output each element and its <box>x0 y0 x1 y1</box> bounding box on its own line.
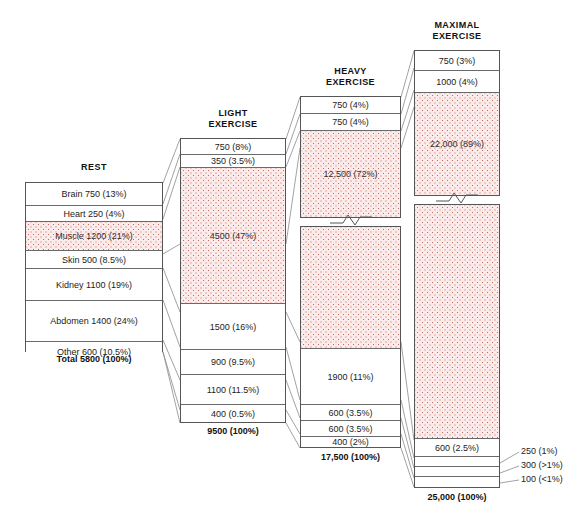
stack-rest: Brain 750 (13%) Heart 250 (4%) Muscle 12… <box>25 182 163 352</box>
segment-brain[interactable]: Brain 750 (13%) <box>26 183 162 206</box>
stack-heavy-exercise-lower: 1900 (11%) 600 (3.5%) 600 (3.5%) 400 (2%… <box>300 226 401 448</box>
column-title-maximal-exercise: MAXIMAL EXERCISE <box>414 20 500 42</box>
segment-abdomen[interactable]: 600 (3.5%) <box>301 421 400 437</box>
column-total-heavy-exercise: 17,500 (100%) <box>300 452 401 462</box>
segment-label-skin: 1900 (11%) <box>326 372 376 382</box>
column-rest: REST Brain 750 (13%) Heart 250 (4%) Musc… <box>25 162 163 370</box>
segment-muscle-continued[interactable] <box>415 205 499 439</box>
segment-kidney[interactable] <box>415 457 499 467</box>
segment-label-skin: 1500 (16%) <box>208 322 259 332</box>
segment-label-abdomen: Abdomen 1400 (24%) <box>48 316 140 326</box>
segment-heart[interactable]: 750 (4%) <box>301 114 400 131</box>
segment-skin[interactable]: 1900 (11%) <box>301 349 400 405</box>
segment-other[interactable]: 400 (0.5%) <box>181 405 285 422</box>
stack-heavy-exercise-upper: 750 (4%) 750 (4%) 12,500 (72%) <box>300 96 401 218</box>
axis-break-icon <box>330 212 372 226</box>
segment-label-kidney: 600 (3.5%) <box>326 408 374 418</box>
column-total-maximal-exercise: 25,000 (100%) <box>414 492 500 502</box>
segment-label-skin: 600 (2.5%) <box>433 443 481 453</box>
segment-brain[interactable]: 750 (8%) <box>181 139 285 155</box>
segment-other[interactable] <box>415 477 499 487</box>
segment-kidney[interactable]: 600 (3.5%) <box>301 405 400 421</box>
segment-label-muscle: 12,500 (72%) <box>321 169 379 179</box>
segment-label-muscle: 4500 (47%) <box>208 231 259 241</box>
segment-brain[interactable]: 750 (4%) <box>301 97 400 114</box>
stack-maximal-exercise-upper: 750 (3%) 1000 (4%) 22,000 (89%) <box>414 50 500 196</box>
segment-abdomen[interactable]: 1100 (11.5%) <box>181 375 285 405</box>
column-title-rest: REST <box>25 162 163 173</box>
callout-label-kidney: 250 (1%) <box>521 446 558 456</box>
segment-label-brain: Brain 750 (13%) <box>59 189 128 199</box>
segment-muscle[interactable]: 22,000 (89%) <box>415 93 499 195</box>
segment-kidney[interactable]: 900 (9.5%) <box>181 350 285 375</box>
column-heavy-exercise: HEAVY EXERCISE 750 (4%) 750 (4%) 12,500 … <box>300 66 401 466</box>
column-maximal-exercise: MAXIMAL EXERCISE 750 (3%) 1000 (4%) 22,0… <box>414 20 500 510</box>
callout-label-abdomen: 300 (>1%) <box>521 460 563 470</box>
column-title-light-exercise: LIGHT EXERCISE <box>180 108 286 130</box>
segment-heart[interactable]: Heart 250 (4%) <box>26 206 162 222</box>
segment-label-brain: 750 (3%) <box>437 56 478 66</box>
segment-label-brain: 750 (4%) <box>330 100 371 110</box>
segment-label-heart: 1000 (4%) <box>434 77 480 87</box>
column-title-heavy-exercise: HEAVY EXERCISE <box>300 66 401 88</box>
segment-label-muscle: Muscle 1200 (21%) <box>53 231 135 241</box>
segment-muscle[interactable]: 4500 (47%) <box>181 168 285 304</box>
segment-label-heart: 350 (3.5%) <box>209 156 257 166</box>
segment-kidney[interactable]: Kidney 1100 (19%) <box>26 269 162 301</box>
segment-skin[interactable]: Skin 500 (8.5%) <box>26 251 162 269</box>
segment-label-abdomen: 600 (3.5%) <box>326 424 374 434</box>
segment-label-kidney: 900 (9.5%) <box>209 357 257 367</box>
segment-label-brain: 750 (8%) <box>213 142 254 152</box>
segment-abdomen[interactable]: Abdomen 1400 (24%) <box>26 301 162 342</box>
segment-label-other: 400 (0.5%) <box>209 409 257 419</box>
segment-label-kidney: Kidney 1100 (19%) <box>54 280 134 290</box>
segment-heart[interactable]: 1000 (4%) <box>415 71 499 93</box>
column-light-exercise: LIGHT EXERCISE 750 (8%) 350 (3.5%) 4500 … <box>180 108 286 433</box>
segment-label-other: 400 (2%) <box>330 437 371 447</box>
segment-skin[interactable]: 600 (2.5%) <box>415 439 499 457</box>
stack-maximal-exercise-lower: 600 (2.5%) <box>414 204 500 488</box>
segment-other[interactable]: 400 (2%) <box>301 437 400 447</box>
column-total-light-exercise: 9500 (100%) <box>180 426 286 436</box>
blood-flow-distribution-diagram: REST Brain 750 (13%) Heart 250 (4%) Musc… <box>0 0 581 530</box>
segment-muscle-continued[interactable] <box>301 227 400 349</box>
segment-skin[interactable]: 1500 (16%) <box>181 304 285 350</box>
segment-label-heart: 750 (4%) <box>330 117 371 127</box>
stack-light-exercise: 750 (8%) 350 (3.5%) 4500 (47%) 1500 (16%… <box>180 138 286 423</box>
segment-brain[interactable]: 750 (3%) <box>415 51 499 71</box>
column-total-rest: Total 5800 (100%) <box>25 354 163 364</box>
segment-muscle[interactable]: 12,500 (72%) <box>301 131 400 217</box>
segment-label-skin: Skin 500 (8.5%) <box>60 255 128 265</box>
segment-muscle[interactable]: Muscle 1200 (21%) <box>26 222 162 251</box>
segment-label-heart: Heart 250 (4%) <box>61 209 126 219</box>
callout-label-other: 100 (<1%) <box>521 474 563 484</box>
segment-label-abdomen: 1100 (11.5%) <box>205 385 262 395</box>
segment-label-muscle: 22,000 (89%) <box>428 139 486 149</box>
axis-break-icon <box>436 190 478 204</box>
segment-heart[interactable]: 350 (3.5%) <box>181 155 285 168</box>
segment-abdomen[interactable] <box>415 467 499 477</box>
